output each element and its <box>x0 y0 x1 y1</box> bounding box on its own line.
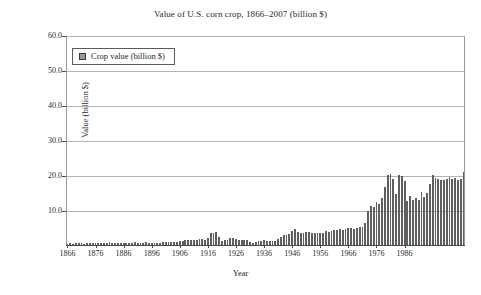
bar <box>350 228 352 245</box>
bar <box>283 235 285 245</box>
bar <box>303 233 305 245</box>
bar <box>376 202 378 245</box>
x-tick-mark <box>376 245 377 248</box>
x-tick-mark <box>292 245 293 248</box>
x-tick-mark <box>264 245 265 248</box>
plot-area: Value (billion $) <box>66 36 465 246</box>
bar <box>294 229 296 245</box>
chart-figure: Value of U.S. corn crop, 1866–2007 (bill… <box>0 0 481 295</box>
bar <box>322 233 324 245</box>
bar <box>305 232 307 245</box>
bar <box>331 231 333 245</box>
bar <box>300 233 302 245</box>
bar <box>390 174 392 245</box>
bar <box>435 178 437 245</box>
x-axis-tick-labels: 1866187618861896190619161926193619461956… <box>66 250 465 264</box>
bar <box>440 180 442 245</box>
bar <box>392 179 394 246</box>
bar <box>449 177 451 245</box>
bar <box>398 175 400 245</box>
bar <box>232 238 234 245</box>
bar <box>401 176 403 245</box>
bar <box>384 187 386 245</box>
x-tick-mark <box>348 245 349 248</box>
x-tick-mark <box>405 245 406 248</box>
bar <box>418 200 420 245</box>
bar <box>432 175 434 245</box>
bar <box>395 194 397 245</box>
bar <box>362 227 364 245</box>
chart-title: Value of U.S. corn crop, 1866–2007 (bill… <box>0 9 481 19</box>
bar <box>319 233 321 245</box>
bar <box>297 232 299 245</box>
bar <box>288 234 290 245</box>
plot-border-left <box>66 36 67 246</box>
bar <box>443 180 445 245</box>
bar <box>207 238 209 245</box>
x-axis-title: Year <box>0 268 481 278</box>
bar <box>364 223 366 245</box>
x-tick-mark <box>180 245 181 248</box>
legend-label: Crop value (billion $) <box>91 52 165 61</box>
x-tick-mark <box>124 245 125 248</box>
bar <box>342 230 344 245</box>
y-tick-label: 40.0 <box>22 102 62 110</box>
bar <box>406 201 408 245</box>
bar <box>317 233 319 245</box>
bar <box>311 233 313 245</box>
bar <box>387 175 389 245</box>
bar <box>291 231 293 245</box>
bar <box>415 198 417 245</box>
bar <box>229 238 231 245</box>
bar <box>370 206 372 245</box>
bar <box>359 227 361 245</box>
bar <box>367 211 369 245</box>
bar <box>454 178 456 245</box>
bar <box>460 179 462 246</box>
x-tick-mark <box>96 245 97 248</box>
bar <box>325 231 327 245</box>
x-tick-mark <box>67 245 68 248</box>
bar <box>378 204 380 245</box>
bar <box>308 232 310 245</box>
x-tick-mark <box>152 245 153 248</box>
bar <box>286 235 288 245</box>
y-tick-label: 60.0 <box>22 32 62 40</box>
bar <box>333 230 335 245</box>
x-tick-label: 1986 <box>383 250 427 258</box>
x-tick-mark <box>236 245 237 248</box>
bar <box>451 179 453 245</box>
bar <box>356 228 358 245</box>
bar <box>353 229 355 245</box>
bar <box>314 233 316 245</box>
bar <box>457 180 459 245</box>
bar <box>404 181 406 245</box>
bar <box>373 207 375 246</box>
chart-legend: Crop value (billion $) <box>72 48 175 65</box>
bar <box>215 232 217 245</box>
bar <box>328 232 330 245</box>
y-tick-label: 20.0 <box>22 172 62 180</box>
bar <box>421 192 423 245</box>
y-tick-label: 50.0 <box>22 67 62 75</box>
bar <box>336 230 338 245</box>
bar <box>429 184 431 245</box>
bar <box>218 237 220 245</box>
y-axis-tick-labels: 60.050.040.030.020.010.0 <box>18 36 62 246</box>
bar <box>423 197 425 245</box>
bar <box>345 229 347 245</box>
bar <box>213 233 215 245</box>
bar <box>437 179 439 245</box>
bar <box>381 198 383 245</box>
bar <box>412 200 414 246</box>
y-tick-label: 10.0 <box>22 207 62 215</box>
y-tick-label: 30.0 <box>22 137 62 145</box>
crop-value-swatch-icon <box>79 53 86 60</box>
bar <box>347 228 349 246</box>
bar-series <box>66 36 465 246</box>
bar <box>446 179 448 245</box>
bar <box>409 196 411 245</box>
x-tick-mark <box>208 245 209 248</box>
plot-border-right <box>464 36 465 246</box>
bar <box>210 233 212 245</box>
